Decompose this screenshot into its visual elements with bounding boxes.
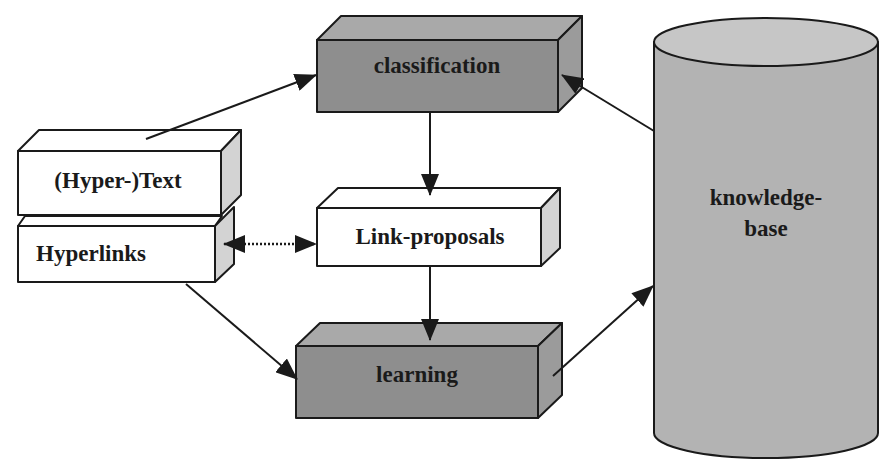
classification-label: classification: [374, 53, 501, 78]
edge-hyperlinks-to-learning: [186, 284, 297, 379]
edge-learning-to-knowledge-base: [553, 286, 653, 376]
hypertext-node: (Hyper-)Text: [18, 130, 241, 215]
knowledge-base-label-line2: base: [744, 216, 787, 241]
knowledge-base-node: knowledge- base: [654, 18, 878, 458]
hyperlinks-top-face: [18, 216, 222, 226]
hypertext-label: (Hyper-)Text: [54, 168, 182, 193]
classification-top-face: [317, 16, 582, 40]
link-proposals-label: Link-proposals: [355, 224, 504, 249]
classification-node: classification: [317, 16, 582, 112]
hyperlinks-label: Hyperlinks: [36, 241, 146, 266]
cylinder-body: [654, 42, 878, 458]
knowledge-base-label-line1: knowledge-: [710, 185, 822, 210]
edge-knowledge-base-to-classification: [562, 75, 654, 131]
cylinder-top: [654, 18, 878, 66]
link-proposals-node: Link-proposals: [317, 188, 560, 266]
hyperlinks-node: Hyperlinks: [18, 207, 234, 282]
diagram-canvas: knowledge- base classification Hyperlink…: [0, 0, 890, 463]
learning-label: learning: [376, 362, 458, 387]
hypertext-top-face: [18, 130, 241, 151]
link-proposals-top-face: [317, 188, 560, 208]
